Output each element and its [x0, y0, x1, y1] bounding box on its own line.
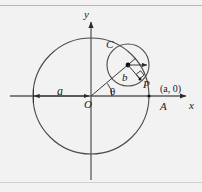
inner-radius-label: b: [122, 72, 128, 83]
outer-radius-label: a: [57, 85, 63, 97]
y-axis-label: y: [84, 9, 89, 20]
point-A-label: A: [160, 101, 167, 112]
origin-label: O: [84, 99, 92, 110]
diagram-svg: [0, 0, 202, 192]
point-P-label: P: [143, 79, 150, 90]
point-P-dot: [139, 78, 142, 81]
figure-canvas: y x O A C P b a θ (a, 0): [0, 0, 202, 192]
point-A-dot: [147, 94, 150, 97]
x-axis-label: x: [189, 100, 194, 111]
theta-angle-label: θ: [110, 86, 115, 97]
point-A-coordinate-label: (a, 0): [160, 84, 181, 94]
point-C-label: C: [106, 39, 113, 50]
